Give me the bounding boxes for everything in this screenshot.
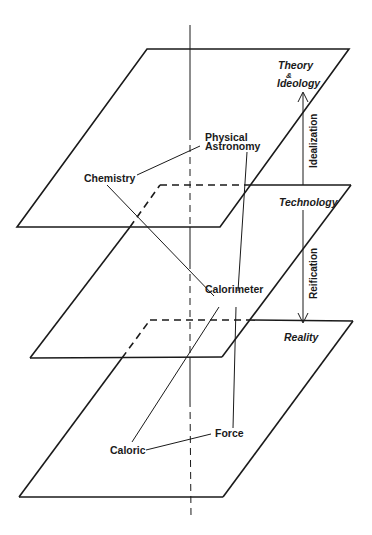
label-reification: Reification: [308, 248, 319, 299]
label-technology: Technology: [279, 196, 339, 208]
concept-links: [107, 146, 247, 450]
label-caloric: Caloric: [110, 444, 146, 456]
label-force: Force: [215, 427, 244, 439]
idealization-arrow: [298, 92, 308, 185]
label-calorimeter: Calorimeter: [205, 283, 263, 295]
label-theory: Theory: [278, 59, 314, 71]
label-chemistry: Chemistry: [84, 172, 136, 184]
reification-arrow: [298, 210, 308, 323]
label-reality: Reality: [284, 331, 320, 343]
plane-reality: [19, 320, 353, 497]
label-astronomy: Astronomy: [205, 140, 261, 152]
label-idealization: Idealization: [308, 114, 319, 168]
label-ideology: Ideology: [277, 77, 321, 89]
layered-planes-diagram: Theory & Ideology Technology Reality Ide…: [0, 0, 372, 535]
